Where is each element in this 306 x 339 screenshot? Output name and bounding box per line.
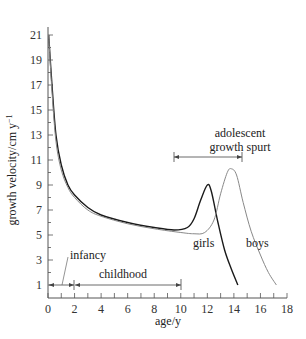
boys-label: boys [246, 236, 269, 250]
x-tick-label: 16 [254, 302, 266, 316]
infancy-arrow-left [49, 283, 54, 287]
x-axis-label: age/y [155, 314, 181, 328]
childhood-arrow-right [176, 283, 181, 287]
x-tick-label: 14 [228, 302, 240, 316]
y-tick-label: 11 [30, 153, 42, 167]
y-tick-label: 1 [36, 278, 42, 292]
x-tick-label: 18 [281, 302, 293, 316]
adolescent-label-line1: adolescent [215, 126, 266, 140]
girls-label: girls [193, 236, 215, 250]
y-tick-label: 5 [36, 228, 42, 242]
adolescent-arrow-right [237, 155, 242, 159]
adolescent-arrow-left [174, 155, 179, 159]
y-tick-label: 9 [36, 178, 42, 192]
infancy-leader [62, 257, 68, 285]
y-axis-label: growth velocity/cm y−1 [5, 114, 19, 225]
y-ticks: 13579111315171921 [30, 28, 53, 292]
y-tick-label: 17 [30, 78, 42, 92]
growth-velocity-chart: 13579111315171921 024681012141618 growth… [0, 0, 306, 339]
y-tick-label: 21 [30, 28, 42, 42]
y-tick-label: 3 [36, 253, 42, 267]
infancy-arrow-right [69, 283, 74, 287]
x-tick-label: 12 [201, 302, 213, 316]
childhood-label: childhood [99, 267, 147, 281]
infancy-label: infancy [70, 248, 106, 262]
adolescent-label-line2: growth spurt [210, 140, 272, 154]
y-tick-label: 19 [30, 53, 42, 67]
x-tick-label: 4 [98, 302, 104, 316]
x-ticks: 024681012141618 [45, 293, 293, 316]
y-axis-label-superscript: −1 [5, 114, 14, 123]
axes: 13579111315171921 024681012141618 [30, 27, 293, 316]
annotations: infancy childhood adolescent growth spur… [49, 126, 271, 290]
x-tick-label: 2 [72, 302, 78, 316]
y-tick-label: 15 [30, 103, 42, 117]
y-tick-label: 13 [30, 128, 42, 142]
x-tick-label: 6 [125, 302, 131, 316]
x-tick-label: 0 [45, 302, 51, 316]
y-tick-label: 7 [36, 203, 42, 217]
childhood-arrow-left [75, 283, 80, 287]
